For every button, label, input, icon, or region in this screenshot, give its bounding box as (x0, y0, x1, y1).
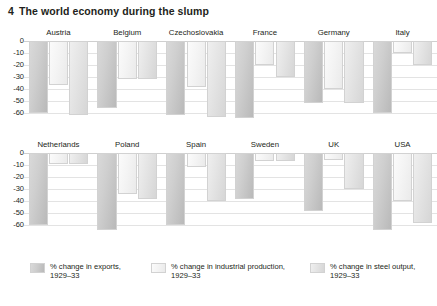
bar-slot (49, 153, 68, 231)
bar-slot (304, 153, 323, 231)
panel-title: Poland (93, 140, 162, 149)
panel-title: Germany (299, 28, 368, 37)
bar-slot (255, 41, 274, 119)
chart-legend: % change in exports, 1929–33 % change in… (0, 258, 437, 298)
panel-uk: UK (299, 153, 368, 231)
panel-usa: USA (368, 153, 437, 231)
bar (235, 41, 254, 118)
panel-czechoslovakia: Czechoslovakia (162, 41, 231, 119)
panel-title: Austria (24, 28, 93, 37)
y-axis-tick: 0 (0, 37, 24, 45)
bar-slot (324, 153, 343, 231)
bar (166, 41, 185, 115)
bar-slot (69, 41, 88, 119)
bar (69, 41, 88, 115)
panel-title: Belgium (93, 28, 162, 37)
bar (373, 153, 392, 230)
y-axis-tick: -20 (0, 173, 24, 181)
panels-row-2: NetherlandsPolandSpainSwedenUKUSA (24, 153, 437, 231)
legend-item-industrial-production: % change in industrial production, 1929–… (151, 262, 285, 280)
bar (97, 153, 116, 230)
bar (235, 153, 254, 199)
chart-row-1: 0-10-20-30-40-50-60 AustriaBelgiumCzecho… (0, 27, 437, 129)
panel-title: UK (299, 140, 368, 149)
figure-title: 4The world economy during the slump (8, 5, 209, 17)
bar-group (234, 153, 295, 231)
bar-slot (235, 153, 254, 231)
bar-group (303, 41, 364, 119)
bar (304, 153, 323, 211)
bar (255, 41, 274, 65)
y-axis-labels-row-2: 0-10-20-30-40-50-60 (0, 153, 24, 231)
bar-slot (207, 41, 226, 119)
bar-slot (166, 153, 185, 231)
bar-slot (324, 41, 343, 119)
bar-slot (118, 153, 137, 231)
bar (97, 41, 116, 108)
bar (29, 41, 48, 113)
bar (207, 41, 226, 117)
bar-slot (276, 41, 295, 119)
bar (255, 153, 274, 161)
panel-title: France (230, 28, 299, 37)
bar (276, 153, 295, 161)
panel-belgium: Belgium (93, 41, 162, 119)
y-axis-tick: -40 (0, 85, 24, 93)
panel-spain: Spain (162, 153, 231, 231)
bar (393, 153, 412, 201)
bar (304, 41, 323, 103)
bar (393, 41, 412, 53)
bar-slot (166, 41, 185, 119)
y-axis-tick: -50 (0, 209, 24, 217)
y-axis-labels-row-1: 0-10-20-30-40-50-60 (0, 41, 24, 119)
bar-slot (187, 153, 206, 231)
bar-group (97, 153, 158, 231)
bar-group (166, 153, 227, 231)
panel-sweden: Sweden (230, 153, 299, 231)
panel-austria: Austria (24, 41, 93, 119)
bar-slot (304, 41, 323, 119)
bar-slot (118, 41, 137, 119)
y-axis-tick: -20 (0, 61, 24, 69)
bar-group (234, 41, 295, 119)
bar (187, 41, 206, 87)
bar-slot (138, 41, 157, 119)
bar (413, 153, 432, 223)
bar-group (372, 41, 433, 119)
bar-slot (393, 41, 412, 119)
bar (49, 41, 68, 85)
bar-slot (344, 41, 363, 119)
bar-slot (29, 41, 48, 119)
bar (138, 153, 157, 199)
bar-group (28, 153, 89, 231)
y-axis-tick: -60 (0, 221, 24, 229)
bar (413, 41, 432, 65)
bar (187, 153, 206, 167)
y-axis-tick: -10 (0, 49, 24, 57)
y-axis-tick: -10 (0, 161, 24, 169)
legend-label-industrial-production: % change in industrial production, 1929–… (171, 262, 285, 280)
y-axis-tick: -60 (0, 109, 24, 117)
bar-slot (97, 153, 116, 231)
y-axis-tick: -30 (0, 185, 24, 193)
bar-slot (413, 153, 432, 231)
legend-swatch-steel-output (310, 263, 325, 273)
y-axis-tick: -30 (0, 73, 24, 81)
plot-area-row-1: AustriaBelgiumCzechoslovakiaFranceGerman… (24, 41, 437, 119)
bar (324, 41, 343, 89)
bar (49, 153, 68, 164)
bar (344, 41, 363, 103)
y-axis-tick: -40 (0, 197, 24, 205)
legend-label-steel-output: % change in steel output, 1929–33 (330, 262, 415, 280)
bar (138, 41, 157, 79)
bar (324, 153, 343, 160)
bar-slot (413, 41, 432, 119)
bar-slot (69, 153, 88, 231)
figure-title-text: The world economy during the slump (19, 5, 209, 17)
bar-slot (393, 153, 412, 231)
panel-france: France (230, 41, 299, 119)
panel-title: Netherlands (24, 140, 93, 149)
bar-slot (276, 153, 295, 231)
bar (276, 41, 295, 77)
panels-row-1: AustriaBelgiumCzechoslovakiaFranceGerman… (24, 41, 437, 119)
